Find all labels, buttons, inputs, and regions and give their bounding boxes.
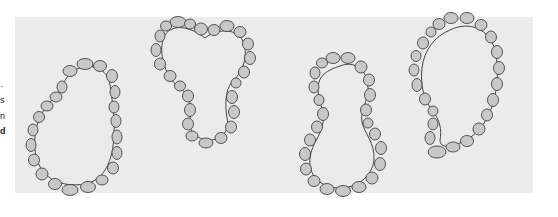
figure-eight-epithelial-ring (300, 53, 387, 197)
kidney-shaped-epithelial-ring (26, 59, 122, 196)
heart-shaped-epithelial-ring (151, 17, 256, 149)
comma-shaped-epithelial-ring (409, 13, 505, 159)
cell-ring-diagram (0, 0, 558, 217)
